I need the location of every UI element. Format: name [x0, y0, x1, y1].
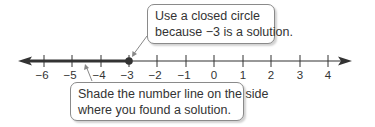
- tick-label: −6: [35, 69, 48, 81]
- tick-label: −1: [177, 69, 190, 81]
- closed-circle-point: [125, 57, 133, 65]
- tick-label: 2: [268, 69, 274, 81]
- callout-line: because −3 is a solution.: [155, 24, 267, 40]
- tick-label: 4: [325, 69, 332, 81]
- tick-label: 0: [211, 69, 217, 81]
- tick-label: 1: [240, 69, 246, 81]
- tick-label: −4: [92, 69, 106, 81]
- shade-line-callout: Shade the number line on the side where …: [70, 82, 244, 121]
- tick-labels: −6 −5 −4 −3 −2 −1 0 1 2 3 4: [35, 69, 331, 81]
- top-callout-pointer: [133, 36, 147, 55]
- callout-line: Use a closed circle: [155, 8, 267, 24]
- tick-label: 3: [297, 69, 303, 81]
- tick-label: −2: [148, 69, 161, 81]
- tick-label: −3: [120, 69, 133, 81]
- closed-circle-callout: Use a closed circle because −3 is a solu…: [147, 4, 275, 44]
- pointer-arrow-icon: [84, 64, 89, 70]
- pointer-arrow-icon: [132, 51, 137, 57]
- tick-label: −5: [63, 69, 76, 81]
- callout-line: where you found a solution.: [78, 102, 236, 118]
- callout-line: Shade the number line on the side: [78, 86, 236, 102]
